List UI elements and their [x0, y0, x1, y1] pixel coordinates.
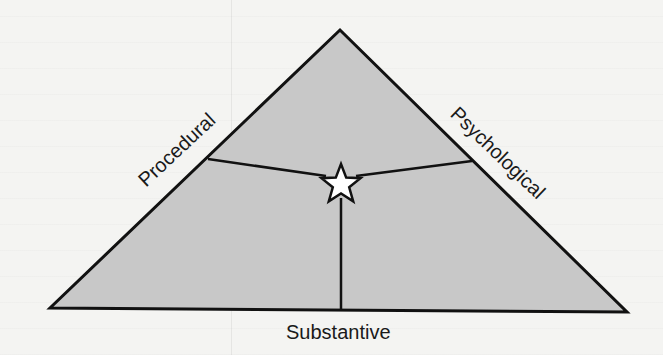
satisfaction-triangle — [0, 0, 663, 355]
side-label-substantive: Substantive — [286, 322, 391, 342]
diagram-canvas: Procedural Psychological Substantive — [0, 0, 663, 355]
